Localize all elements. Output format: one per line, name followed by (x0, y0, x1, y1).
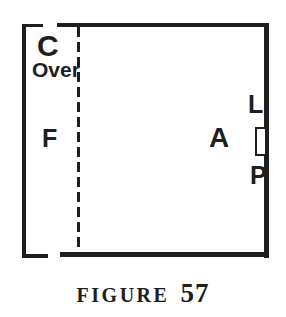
label-p: P (250, 163, 267, 188)
label-l: L (248, 92, 263, 117)
wall-fixture-rect (255, 127, 267, 156)
wall-stub-top-left (22, 24, 43, 27)
caption-word: FIGURE (77, 284, 170, 307)
label-a: A (209, 124, 229, 152)
wall-top (57, 23, 269, 27)
wall-left (22, 24, 26, 258)
label-over: Over (32, 59, 80, 80)
label-f: F (42, 126, 57, 151)
caption-number: 57 (180, 278, 209, 309)
figure-diagram: C Over F A L P FIGURE 57 (0, 0, 286, 317)
wall-bottom (60, 252, 269, 257)
label-c: C (37, 31, 59, 61)
wall-stub-bottom-left (22, 254, 48, 258)
figure-caption: FIGURE 57 (0, 278, 286, 309)
